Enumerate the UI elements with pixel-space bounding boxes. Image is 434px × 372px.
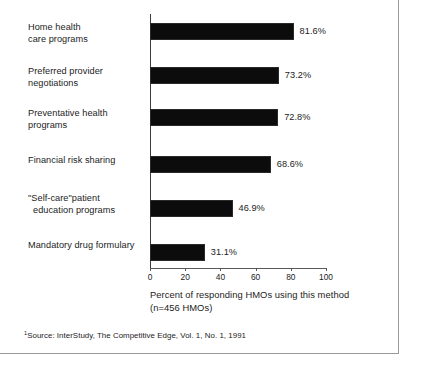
bar-value-label: 72.8% <box>284 109 310 126</box>
category-label-line2: programs <box>28 120 144 132</box>
bar-chart-figure: Home health care programs Preferred prov… <box>0 0 399 354</box>
bar-value-label: 31.1% <box>211 244 237 261</box>
x-axis-title-line2: (n=456 HMOs) <box>150 302 390 315</box>
x-tick-label: 20 <box>170 272 200 283</box>
category-label-line1: Mandatory drug formulary <box>28 240 134 250</box>
x-tick-mark <box>326 268 327 271</box>
category-label: "Self-care"patient education programs <box>28 193 144 216</box>
source-note-text: Source: InterStudy, The Competitive Edge… <box>27 331 246 340</box>
x-tick-mark <box>256 268 257 271</box>
category-label: Financial risk sharing <box>28 155 144 167</box>
category-label-line1: "Self-care"patient <box>28 193 100 203</box>
bar <box>150 156 271 173</box>
bar-value-label: 73.2% <box>285 67 311 84</box>
x-tick-label: 100 <box>311 272 341 283</box>
x-axis-title-line1: Percent of responding HMOs using this me… <box>150 289 349 300</box>
y-axis-line <box>150 14 151 268</box>
bar-value-label: 81.6% <box>300 23 326 40</box>
x-tick-mark <box>291 268 292 271</box>
category-label-line1: Preferred provider <box>28 66 103 76</box>
category-label-line2: care programs <box>28 34 144 46</box>
x-tick-label: 40 <box>205 272 235 283</box>
category-label: Mandatory drug formulary <box>28 240 144 252</box>
x-axis-title: Percent of responding HMOs using this me… <box>150 289 390 314</box>
x-tick-mark <box>185 268 186 271</box>
bar-value-label: 46.9% <box>239 200 265 217</box>
x-axis-line <box>150 268 326 269</box>
category-label: Home health care programs <box>28 22 144 45</box>
bar <box>150 200 233 217</box>
x-tick-mark <box>150 268 151 271</box>
bar <box>150 244 205 261</box>
category-label-line2: negotiations <box>28 78 144 90</box>
category-label-line1: Home health <box>28 22 81 32</box>
x-tick-mark <box>220 268 221 271</box>
bar <box>150 67 279 84</box>
bar <box>150 109 278 126</box>
bar <box>150 23 294 40</box>
category-label-line1: Preventative health <box>28 108 108 118</box>
category-label: Preventative health programs <box>28 108 144 131</box>
category-label-line2: education programs <box>28 205 144 217</box>
x-tick-label: 0 <box>135 272 165 283</box>
x-tick-label: 80 <box>276 272 306 283</box>
category-label-line1: Financial risk sharing <box>28 155 115 165</box>
bar-value-label: 68.6% <box>277 156 303 173</box>
source-note: 1Source: InterStudy, The Competitive Edg… <box>24 328 246 341</box>
plot-area: 81.6% 73.2% 72.8% 68.6% 46.9% 31.1% 0 20… <box>150 14 326 268</box>
x-tick-label: 60 <box>241 272 271 283</box>
category-label: Preferred provider negotiations <box>28 66 144 89</box>
